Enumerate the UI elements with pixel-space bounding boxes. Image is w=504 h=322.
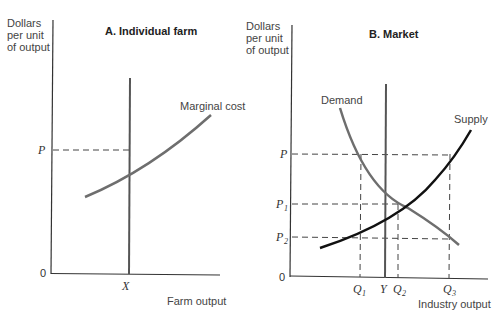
panel-b-ylabel-line1: Dollars [246,20,281,32]
panel-b-q3-sub: 3 [451,289,456,298]
panel-b-y-axis [290,25,292,277]
panel-a-ylabel-line2: per unit [7,29,44,41]
panel-b-x-axis [290,276,488,279]
panel-b-p2-dashed-line [292,237,449,239]
panel-a-title: A. Individual farm [105,25,198,37]
panel-a-ylabel-line1: Dollars [7,17,42,29]
panel-b-q1-sub: 1 [362,289,366,298]
panel-b-ylabel-line2: per unit [246,32,283,44]
panel-b-q3-label: Q [443,282,452,296]
panel-a: Dollars per unit of output A. Individual… [7,17,245,307]
demand-curve [340,108,459,245]
panel-b-q1-dashed-line [360,154,361,277]
panel-b-q2-label: Q [393,282,402,296]
panel-b-p1-sub: 1 [284,204,288,213]
panel-b-origin: 0 [279,271,285,283]
panel-b-vertical-line-y [385,84,386,278]
panel-b: Dollars per unit of output B. Market Dem… [246,20,491,310]
panel-a-price-label: P [37,143,46,157]
panel-a-ylabel-line3: of output [7,41,50,53]
panel-b-title: B. Market [369,28,419,40]
panel-a-origin: 0 [40,267,46,279]
panel-a-x-axis [51,274,220,276]
panel-b-q3-dashed-line [449,154,450,278]
supply-curve [320,130,471,248]
panel-b-q1-label: Q [353,282,362,296]
panel-a-y-axis [51,20,53,274]
panel-a-x-label: X [121,279,130,293]
panel-b-p-label: P [279,147,288,161]
panel-b-q2-sub: 2 [402,289,406,298]
panel-b-p2-label: P [275,230,284,244]
panel-b-p-dashed-line [292,154,449,155]
panel-b-y-label: Y [380,282,388,296]
panel-b-p1-label: P [275,197,284,211]
supply-label: Supply [454,113,488,125]
panel-b-p2-sub: 2 [284,237,288,246]
demand-label: Demand [321,94,363,106]
marginal-cost-label: Marginal cost [180,100,245,112]
panel-a-xlabel: Farm output [167,295,226,307]
panel-b-xlabel: Industry output [418,298,491,310]
diagram-canvas: Dollars per unit of output A. Individual… [0,0,504,322]
marginal-cost-curve [85,115,211,197]
panel-b-ylabel-line3: of output [246,44,289,56]
